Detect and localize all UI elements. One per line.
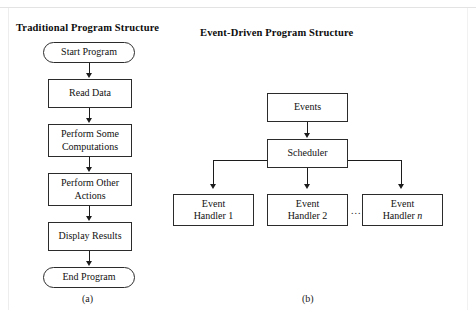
node-event-handler-2: EventHandler 2 — [267, 194, 348, 226]
page-edge-right — [467, 8, 468, 310]
arrowhead-event-handler-1 — [210, 184, 216, 189]
node-read-data-label: Read Data — [67, 87, 113, 100]
node-scheduler: Scheduler — [267, 139, 348, 168]
connector-branch-handler-1 — [213, 160, 214, 187]
node-event-handler-1-label: EventHandler 1 — [192, 198, 236, 223]
node-event-handler-n: EventHandler n — [362, 194, 443, 226]
arrowhead-end-program — [86, 261, 92, 266]
node-perform-other-actions: Perform OtherActions — [48, 173, 132, 206]
page-edge-top — [0, 7, 476, 8]
node-events: Events — [267, 93, 348, 122]
node-end-program-label: End Program — [60, 271, 117, 284]
node-event-handler-n-label: EventHandler n — [381, 198, 425, 223]
arrowhead-display-results — [86, 216, 92, 221]
arrowhead-read-data — [86, 73, 92, 78]
node-start-program-label: Start Program — [59, 46, 119, 59]
handler-index-variable: n — [417, 210, 422, 221]
connector-scheduler-bus-right — [348, 160, 402, 161]
arrowhead-event-handler-n — [398, 184, 404, 189]
arrowhead-perform-some-computations — [86, 118, 92, 123]
node-display-results: Display Results — [48, 222, 132, 251]
page-edge-left — [8, 8, 9, 310]
node-event-handler-1: EventHandler 1 — [173, 194, 254, 226]
node-display-results-label: Display Results — [56, 230, 123, 243]
figure-root: Traditional Program Structure Start Prog… — [0, 0, 476, 310]
node-perform-some-computations: Perform SomeComputations — [48, 124, 132, 157]
arrowhead-scheduler — [304, 133, 310, 138]
connector-branch-handler-n — [401, 160, 402, 187]
panel-caption-a: (a) — [82, 293, 93, 304]
panel-title-traditional: Traditional Program Structure — [16, 22, 159, 33]
node-read-data: Read Data — [48, 79, 132, 108]
node-end-program: End Program — [43, 267, 135, 288]
handlers-ellipsis: ... — [351, 205, 362, 216]
node-events-label: Events — [292, 101, 323, 114]
node-scheduler-label: Scheduler — [286, 147, 330, 160]
node-perform-some-computations-label: Perform SomeComputations — [59, 128, 121, 153]
arrowhead-perform-other-actions — [86, 167, 92, 172]
node-event-handler-2-label: EventHandler 2 — [286, 198, 330, 223]
connector-scheduler-bus-left — [213, 160, 267, 161]
arrowhead-event-handler-2 — [304, 184, 310, 189]
node-start-program: Start Program — [43, 42, 135, 63]
panel-caption-b: (b) — [302, 293, 314, 304]
panel-title-event-driven: Event-Driven Program Structure — [200, 27, 353, 38]
node-perform-other-actions-label: Perform OtherActions — [59, 177, 121, 202]
